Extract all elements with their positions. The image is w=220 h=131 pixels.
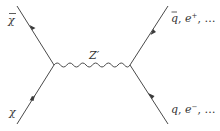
outgoing-bottom-label: q, e−, … <box>171 103 215 116</box>
svg-text:q, e−, …: q, e−, … <box>171 103 215 116</box>
mediator-label: Z′ <box>88 49 100 62</box>
feynman-diagram: χ χ Z′ q, e+, … q, e−, … <box>0 0 220 131</box>
mediator-wavy-line <box>54 63 130 67</box>
svg-text:q, e+, …: q, e+, … <box>171 12 215 25</box>
incoming-antiparticle-line <box>17 6 54 65</box>
outgoing-top-label: q, e+, … <box>171 12 215 25</box>
antiparticle-label: χ <box>7 14 16 27</box>
outgoing-particle-line <box>130 65 168 124</box>
particle-label: χ <box>8 106 17 119</box>
incoming-particle-line <box>17 65 54 124</box>
outgoing-antiparticle-line <box>130 6 168 65</box>
